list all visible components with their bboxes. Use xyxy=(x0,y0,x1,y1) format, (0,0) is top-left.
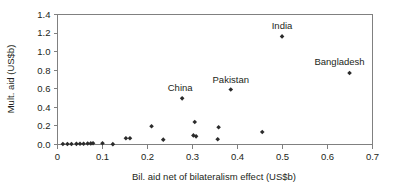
annotation-pakistan: Pakistan xyxy=(213,74,249,85)
y-tick-label-3: 0.6 xyxy=(37,83,50,94)
data-point-bangladesh xyxy=(347,71,352,76)
data-point xyxy=(61,142,66,147)
data-point xyxy=(81,141,86,146)
data-point xyxy=(124,136,129,141)
annotation-bangladesh: Bangladesh xyxy=(314,56,364,67)
scatter-chart-figure: 00.10.20.30.40.50.60.7 0.00.20.40.60.81.… xyxy=(0,0,400,185)
data-point xyxy=(216,125,221,130)
y-axis-ticks: 0.00.20.40.60.81.01.21.4 xyxy=(37,9,57,150)
x-axis-title: Bil. aid net of bilateralism effect (US$… xyxy=(132,171,296,182)
data-point xyxy=(215,137,220,142)
data-points xyxy=(61,34,352,146)
data-point xyxy=(161,137,166,142)
data-point-pakistan xyxy=(228,87,233,92)
data-point xyxy=(65,142,70,147)
plot-canvas: 00.10.20.30.40.50.60.7 0.00.20.40.60.81.… xyxy=(0,0,400,185)
data-point xyxy=(111,142,116,147)
data-point-india xyxy=(280,34,285,39)
y-tick-label-5: 1.0 xyxy=(37,46,50,57)
y-tick-label-1: 0.2 xyxy=(37,120,50,131)
data-point xyxy=(260,130,265,135)
data-point xyxy=(192,120,197,125)
y-axis-title: Mult. aid (US$b) xyxy=(5,45,16,114)
x-tick-label-1: 0.1 xyxy=(96,151,109,162)
data-point xyxy=(69,142,74,147)
x-tick-label-6: 0.6 xyxy=(321,151,334,162)
x-tick-label-7: 0.7 xyxy=(366,151,379,162)
data-point-china xyxy=(180,96,185,101)
y-tick-label-6: 1.2 xyxy=(37,27,50,38)
y-tick-label-2: 0.4 xyxy=(37,102,50,113)
annotation-india: India xyxy=(272,20,293,31)
x-tick-label-4: 0.4 xyxy=(231,151,244,162)
point-labels: ChinaPakistanIndiaBangladesh xyxy=(168,20,365,93)
y-tick-label-7: 1.4 xyxy=(37,9,50,20)
annotation-china: China xyxy=(168,82,194,93)
data-point xyxy=(149,124,154,129)
y-tick-label-0: 0.0 xyxy=(37,139,50,150)
x-tick-label-0: 0 xyxy=(55,151,60,162)
x-tick-label-3: 0.3 xyxy=(186,151,199,162)
data-point xyxy=(128,136,133,141)
x-tick-label-2: 0.2 xyxy=(141,151,154,162)
y-tick-label-4: 0.8 xyxy=(37,65,50,76)
x-axis-ticks: 00.10.20.30.40.50.60.7 xyxy=(55,145,379,162)
x-tick-label-5: 0.5 xyxy=(276,151,289,162)
